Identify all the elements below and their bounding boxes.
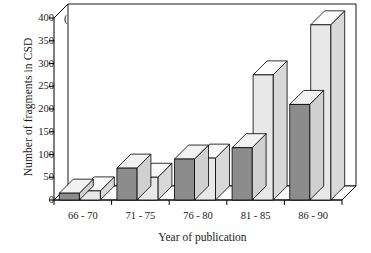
bar-chart-figure: Number of fragments in CSD Year of publi… <box>0 0 371 253</box>
plot-area <box>0 0 371 253</box>
